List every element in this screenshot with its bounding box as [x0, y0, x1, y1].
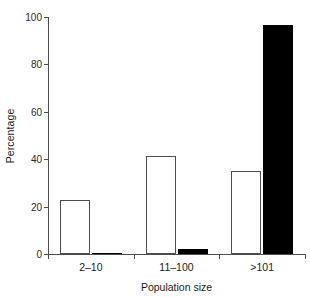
y-tick-label: 0: [36, 249, 42, 260]
bar-filled-2: [178, 249, 208, 254]
y-tick-mark: [44, 159, 48, 160]
plot-area: 020406080100 2–1011–100>101 Population s…: [48, 17, 305, 254]
y-tick-label: 20: [31, 201, 42, 212]
x-axis-line: [48, 254, 305, 255]
y-tick-label: 100: [25, 12, 42, 23]
x-axis-title: Population size: [48, 281, 305, 293]
x-category-label: >101: [250, 261, 274, 273]
y-tick-mark: [44, 112, 48, 113]
bar-open-2: [146, 156, 176, 254]
x-category-label: 11–100: [159, 261, 193, 273]
y-tick-label: 80: [31, 59, 42, 70]
x-tick-mark: [305, 254, 306, 259]
y-tick-label: 60: [31, 106, 42, 117]
x-tick-mark: [134, 254, 135, 259]
y-tick-mark: [44, 17, 48, 18]
y-tick-label: 40: [31, 154, 42, 165]
bar-filled-1: [92, 253, 122, 254]
y-axis-line: [48, 17, 49, 254]
x-tick-mark: [48, 254, 49, 259]
y-tick-mark: [44, 64, 48, 65]
bar-filled-3: [263, 25, 293, 254]
y-axis-title: Percentage: [1, 99, 19, 173]
bar-open-1: [60, 200, 90, 254]
x-category-label: 2–10: [79, 261, 102, 273]
bar-chart-figure: Percentage 020406080100 2–1011–100>101 P…: [0, 0, 310, 297]
y-tick-mark: [44, 207, 48, 208]
bar-open-3: [231, 171, 261, 254]
x-tick-mark: [219, 254, 220, 259]
